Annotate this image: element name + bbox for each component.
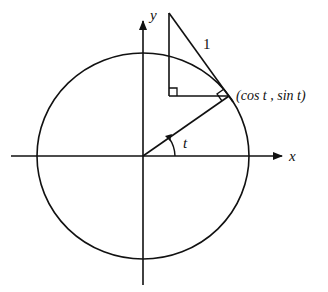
angle-label: t bbox=[183, 135, 188, 151]
y-axis-label: y bbox=[148, 7, 157, 23]
right-angle-marker-point bbox=[217, 89, 224, 101]
right-angle-marker-corner bbox=[169, 88, 177, 96]
point-label: (cos t , sin t) bbox=[236, 88, 306, 104]
hypotenuse-label: 1 bbox=[203, 36, 211, 52]
x-axis-label: x bbox=[288, 148, 296, 164]
unit-circle-diagram: y x t 1 (cos t , sin t) bbox=[0, 0, 328, 292]
